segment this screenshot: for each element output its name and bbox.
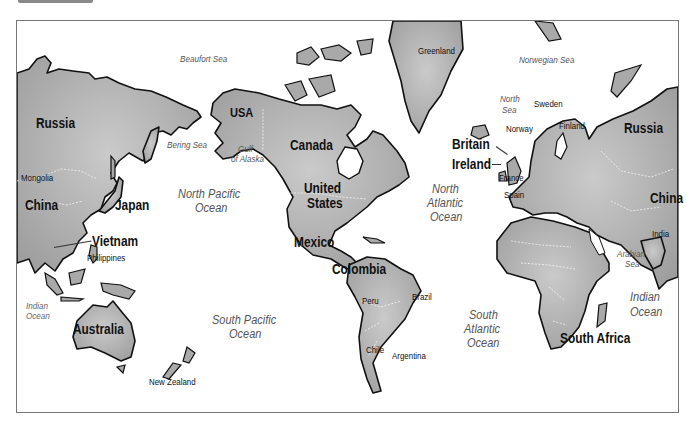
novaya-zemlya [611,65,641,97]
label-norwegian-sea: Norwegian Sea [519,56,574,65]
world-map-svg [17,21,678,412]
sumatra [45,273,63,295]
label-beaufort-sea: Beaufort Sea [180,55,227,64]
label-arabian-sea-1: Arabian [617,250,645,259]
label-vietnam: Vietnam [92,234,138,248]
label-united-states-1: United [304,181,341,195]
label-colombia: Colombia [332,262,386,276]
label-south-pacific-2: Ocean [229,328,261,341]
label-bering-sea: Bering Sea [167,141,207,150]
label-russia-east: Russia [624,121,663,135]
label-france: France [499,174,524,183]
label-india: India [652,230,669,239]
label-mongolia: Mongolia [21,174,53,183]
label-north-sea-1: North [500,95,520,104]
label-finland: Finland [559,122,585,131]
label-arabian-sea-2: Sea [625,260,639,269]
label-china-east: China [650,191,683,205]
label-peru: Peru [362,297,379,306]
label-indian-ocean-east-2: Ocean [630,306,662,319]
label-north-atlantic-3: Ocean [430,211,462,224]
label-brazil: Brazil [412,293,432,302]
arctic-island-3 [285,81,307,101]
sakhalin [111,156,115,179]
label-china-west: China [25,198,58,212]
south-america-landmass [347,257,421,393]
label-new-zealand: New Zealand [149,378,196,387]
label-south-atlantic-3: Ocean [467,337,499,350]
label-usa-alaska: USA [230,106,253,119]
label-indian-ocean-east-1: Indian [630,291,660,304]
label-sweden: Sweden [534,100,563,109]
arctic-island-4 [357,39,373,55]
label-south-pacific-1: South Pacific [212,314,276,327]
label-argentina: Argentina [392,352,426,361]
label-britain: Britain [452,137,490,151]
label-norway: Norway [506,125,533,134]
ireland-leader-line [492,164,501,165]
baffin-area [309,75,335,97]
label-north-atlantic-1: North [432,183,459,196]
greenland-landmass [389,21,463,133]
label-spain: Spain [504,191,524,200]
top-edge-bar [18,0,93,3]
label-gulf-alaska-2: of Alaska [231,155,264,164]
new-zealand-north [183,347,195,363]
borneo [69,269,85,285]
label-philippines: Philippines [87,254,125,263]
label-north-sea-2: Sea [502,106,516,115]
new-guinea [101,283,135,299]
label-australia: Australia [73,322,124,336]
label-north-pacific-2: Ocean [195,202,227,215]
label-mexico: Mexico [294,235,334,249]
label-japan: Japan [115,198,149,212]
svalbard [535,21,561,41]
label-chile: Chile [366,346,384,355]
label-south-atlantic-2: Atlantic [464,323,500,336]
label-canada: Canada [290,138,333,152]
caribbean-islands [363,237,385,243]
arctic-island-1 [297,47,319,65]
label-ireland: Ireland [452,157,491,171]
arctic-island-2 [321,45,351,61]
label-greenland: Greenland [418,47,455,56]
label-indian-ocean-west-1: Indian [26,302,48,311]
label-indian-ocean-west-2: Ocean [26,312,50,321]
label-russia-west: Russia [36,116,75,130]
madagascar [597,303,607,327]
label-united-states-2: States [307,196,343,210]
tasmania [117,365,125,373]
label-gulf-alaska-1: Gulf [238,145,253,154]
label-south-africa: South Africa [560,331,630,345]
label-north-atlantic-2: Atlantic [427,197,463,210]
java [61,297,83,301]
label-north-pacific-1: North Pacific [178,188,240,201]
label-south-atlantic-1: South [469,309,498,322]
world-map-frame [16,20,679,413]
